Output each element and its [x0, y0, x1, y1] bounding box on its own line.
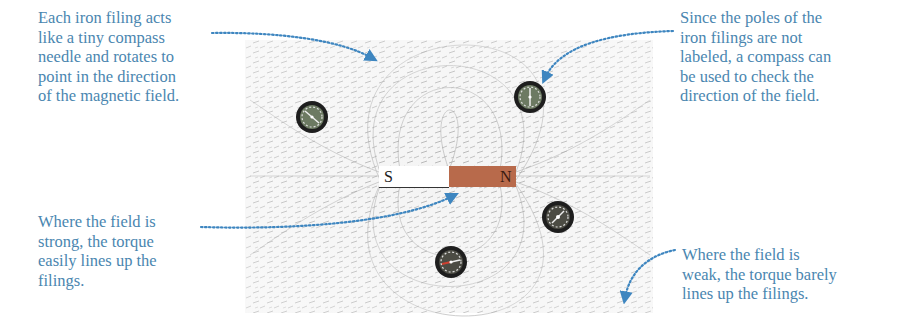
annotation-bottom-right: Where the field is weak, the torque bare…	[682, 245, 837, 304]
bar-magnet: S N	[379, 166, 516, 188]
magnet-south-label: S	[384, 168, 393, 185]
compass-upper-right	[514, 81, 546, 113]
compass-right	[542, 201, 574, 233]
annotation-top-left: Each iron filing acts like a tiny compas…	[38, 8, 179, 106]
compass-upper-left	[296, 101, 328, 133]
annotation-bottom-left: Where the field is strong, the torque ea…	[38, 212, 157, 290]
magnet-north-label: N	[500, 168, 512, 185]
annotation-top-right: Since the poles of the iron filings are …	[680, 8, 831, 106]
compass-bottom	[435, 246, 467, 278]
